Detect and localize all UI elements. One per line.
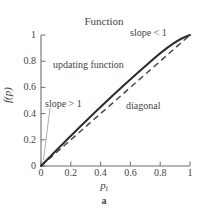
annotation-slope-less-than-one: slope < 1 (130, 28, 167, 38)
y-tick-label-02: 0.2 (10, 135, 36, 145)
y-tick-label-08: 0.8 (10, 56, 36, 66)
y-tick-label-06: 0.6 (10, 82, 36, 92)
y-tick-label-04: 0.4 (10, 109, 36, 119)
chart-title: Function (84, 16, 123, 27)
x-axis-label-subscript: t (106, 184, 108, 193)
x-tick-label-06: 0.6 (124, 168, 137, 178)
slope-gt-leader-line (44, 108, 51, 160)
panel-caption: a (102, 196, 107, 206)
y-axis-label: f(p) (2, 87, 13, 103)
x-tick-label-1: 1 (188, 168, 193, 178)
x-axis-ticks (41, 162, 190, 167)
y-tick-label-1: 1 (14, 30, 36, 40)
annotation-updating-function: updating function (53, 60, 124, 70)
x-tick-label-08: 0.8 (154, 168, 167, 178)
x-tick-label-0: 0 (39, 168, 44, 178)
annotation-diagonal: diagonal (126, 101, 160, 111)
x-tick-label-04: 0.4 (94, 168, 107, 178)
annotation-slope-greater-than-one: slope > 1 (45, 99, 82, 109)
figure-panel-a: Function 1 0.8 0.6 0.4 0.2 0 0 0.2 0.4 0… (0, 0, 209, 209)
x-tick-label-02: 0.2 (65, 168, 78, 178)
y-tick-label-0: 0 (14, 161, 36, 171)
x-axis-label: pt (100, 180, 108, 193)
